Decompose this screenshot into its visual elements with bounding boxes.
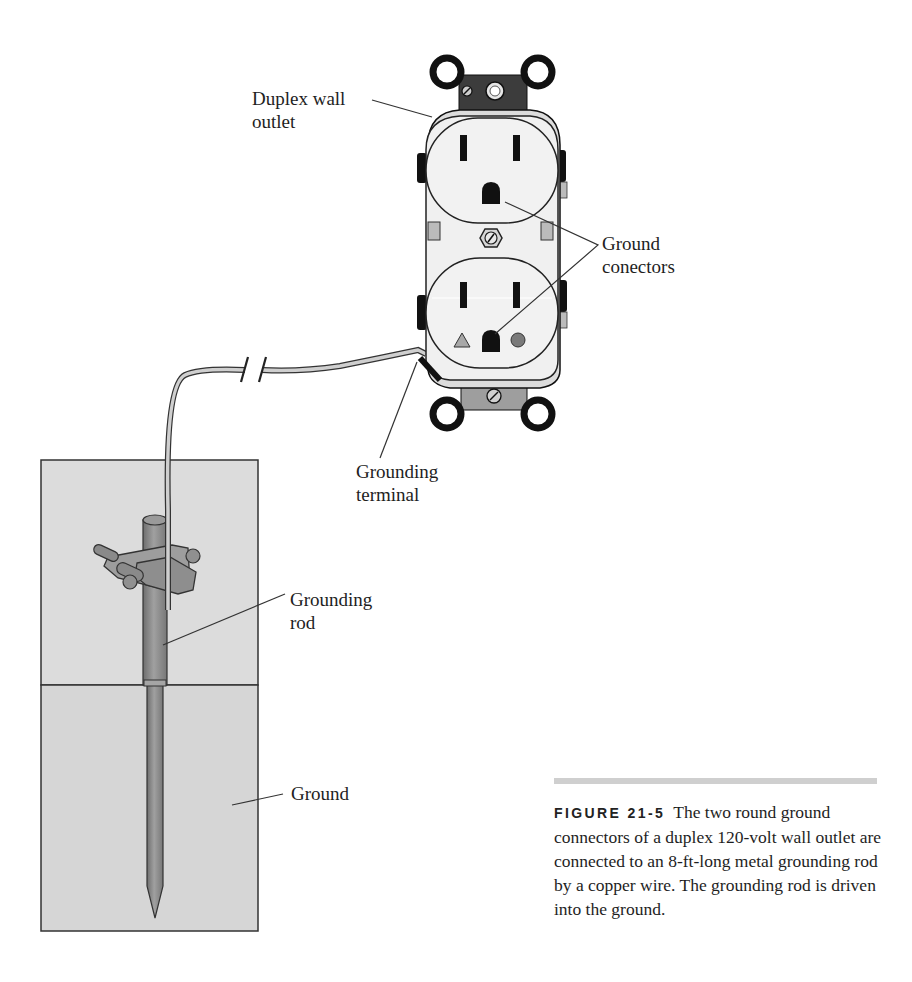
label-grounding-rod: Grounding rod [290, 588, 372, 634]
label-line: Ground [602, 232, 675, 255]
label-line: Grounding [356, 460, 438, 483]
label-line: terminal [356, 483, 438, 506]
figure-caption: FIGURE 21-5 The two round ground connect… [554, 800, 884, 921]
grounding-diagram: Duplex wall outlet Ground conectors Grou… [0, 0, 912, 982]
label-line: Duplex wall [252, 87, 345, 110]
label-line: Grounding [290, 588, 372, 611]
label-line: outlet [252, 110, 345, 133]
figure-number: FIGURE 21-5 [554, 805, 665, 821]
duplex-outlet [417, 58, 567, 428]
label-line: conectors [602, 255, 675, 278]
label-line: Ground [291, 782, 349, 805]
label-duplex-wall-outlet: Duplex wall outlet [252, 87, 345, 133]
label-ground: Ground [291, 782, 349, 805]
label-line: rod [290, 611, 372, 634]
caption-divider [554, 778, 877, 784]
label-grounding-terminal: Grounding terminal [356, 460, 438, 506]
label-ground-connectors: Ground conectors [602, 232, 675, 278]
